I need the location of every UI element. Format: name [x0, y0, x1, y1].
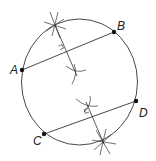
geometry-diagram: A B C D: [0, 0, 156, 161]
point-a: [20, 68, 24, 72]
label-c: C: [33, 134, 42, 148]
arc-intersection-top: [44, 12, 66, 38]
point-d: [134, 99, 138, 103]
arc-intersection-bottom: [92, 129, 116, 155]
circle: [22, 19, 138, 145]
label-a: A: [9, 63, 18, 77]
chord-ab: [22, 32, 114, 70]
label-d: D: [139, 106, 148, 120]
point-b: [112, 30, 116, 34]
bisector-cd: [86, 102, 104, 144]
construction-svg: A B C D: [0, 0, 156, 161]
point-c: [42, 132, 46, 136]
right-angle-mark-ab: [59, 45, 64, 50]
label-b: B: [117, 19, 125, 33]
